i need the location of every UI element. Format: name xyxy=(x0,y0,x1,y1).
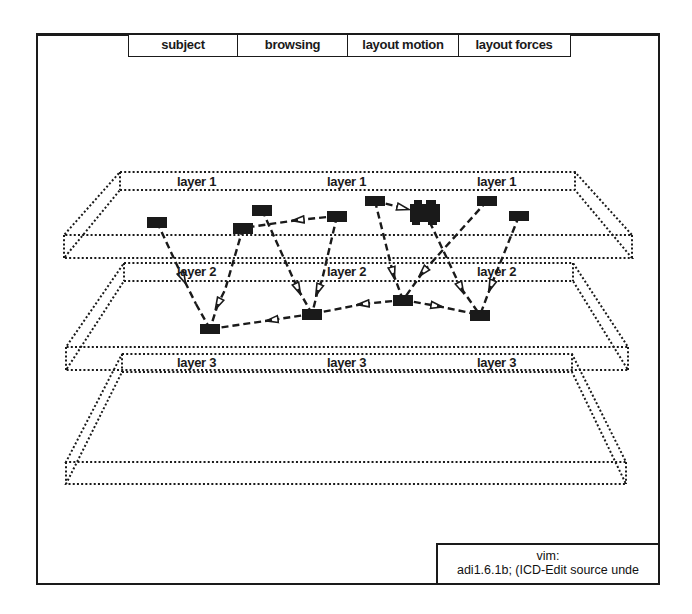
graph-node-j[interactable] xyxy=(302,309,322,320)
graph-node-c[interactable] xyxy=(252,205,272,216)
graph-node-d[interactable] xyxy=(327,211,347,222)
menu-layout-motion-button[interactable]: layout motion xyxy=(347,35,459,57)
status-title: vim: xyxy=(438,549,658,563)
graph-node-k[interactable] xyxy=(393,295,413,306)
layer-3-label-center: layer 3 xyxy=(327,355,366,370)
graph-node-cluster-f[interactable] xyxy=(410,200,440,225)
layer-1-label-left: layer 1 xyxy=(177,174,216,189)
layer-3-plane xyxy=(66,354,626,484)
layer-2-label-center: layer 2 xyxy=(327,264,366,279)
menu-browsing-button[interactable]: browsing xyxy=(237,35,349,57)
graph-node-a[interactable] xyxy=(147,217,167,228)
layer-1-label-right: layer 1 xyxy=(477,174,516,189)
menu-layout-forces-button[interactable]: layout forces xyxy=(458,35,571,57)
layer-3-label-left: layer 3 xyxy=(177,355,216,370)
graph-node-i[interactable] xyxy=(200,324,220,334)
menu-bar: subject browsing layout motion layout fo… xyxy=(128,35,571,57)
status-message: adi1.6.1b; (ICD-Edit source unde xyxy=(438,563,658,577)
graph-node-g[interactable] xyxy=(477,196,497,206)
edge-b-i[interactable] xyxy=(218,228,243,304)
status-message-box: vim: adi1.6.1b; (ICD-Edit source unde xyxy=(436,543,660,585)
graph-node-h[interactable] xyxy=(509,211,529,221)
layer-2-label-right: layer 2 xyxy=(477,264,516,279)
layer-2-label-left: layer 2 xyxy=(177,264,216,279)
layer-3-label-right: layer 3 xyxy=(477,355,516,370)
graph-node-b[interactable] xyxy=(233,223,253,234)
menu-subject-button[interactable]: subject xyxy=(128,35,238,57)
graph-node-e[interactable] xyxy=(365,196,385,206)
layered-graph-view[interactable] xyxy=(0,0,692,614)
graph-node-l[interactable] xyxy=(470,310,490,321)
layer-1-label-center: layer 1 xyxy=(327,174,366,189)
